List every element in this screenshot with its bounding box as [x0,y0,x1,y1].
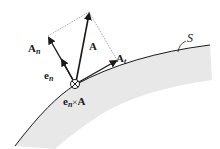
dotted-line-an-to-a [48,12,89,36]
label-a: A [89,40,97,52]
label-en: en [44,69,54,83]
surface-shading [15,45,212,149]
label-en-cross-a: en×A [63,95,85,109]
label-at: At [116,52,127,66]
label-surface-s: S [187,31,193,45]
unit-normal-en-arrow [62,60,73,80]
dotted-line-a-to-at [89,12,117,60]
vector-a-arrow [76,14,89,82]
vector-decomposition-diagram: An en A At en×A S [0,0,220,149]
into-page-cross-icon [71,80,80,89]
label-an: An [28,42,41,56]
diagram-canvas: An en A At en×A S [0,0,220,149]
